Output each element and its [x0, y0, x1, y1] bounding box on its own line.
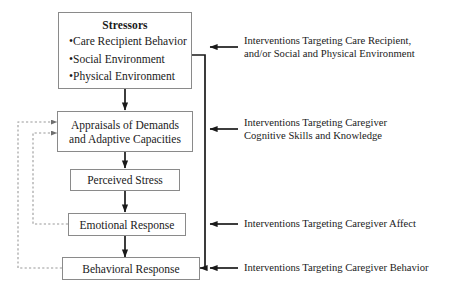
emotional-response-label: Emotional Response	[80, 219, 175, 231]
annotation-line-1: Interventions Targeting Caregiver Behavi…	[244, 262, 429, 275]
stressors-title: Stressors	[63, 19, 187, 31]
stressors-bullet-item: •Social Environment	[63, 54, 187, 66]
box-perceived-stress: Perceived Stress	[70, 169, 180, 191]
perceived-stress-label: Perceived Stress	[87, 174, 163, 186]
annotation-line-1: Interventions Targeting Caregiver	[244, 117, 387, 130]
stressors-bullet-item: •Care Recipient Behavior	[63, 36, 187, 48]
feedback-dashed-behavioral-to-appraisals	[18, 122, 62, 268]
box-behavioral-response: Behavioral Response	[62, 257, 200, 280]
stressors-bullet-label: Care Recipient Behavior	[73, 35, 187, 47]
annotation-line-2: and/or Social and Physical Environment	[244, 48, 415, 61]
annotation-intervention-appraisals: Interventions Targeting Caregiver Cognit…	[244, 117, 387, 143]
box-stressors: Stressors •Care Recipient Behavior •Soci…	[58, 12, 192, 89]
box-appraisals: Appraisals of Demands and Adaptive Capac…	[57, 111, 193, 152]
annotation-intervention-behavioral: Interventions Targeting Caregiver Behavi…	[244, 262, 429, 275]
annotation-intervention-emotional: Interventions Targeting Caregiver Affect	[244, 218, 416, 231]
stressors-bullet-item: •Physical Environment	[63, 71, 187, 83]
appraisals-line-1: Appraisals of Demands	[71, 119, 179, 131]
behavioral-response-label: Behavioral Response	[82, 263, 179, 275]
stressors-bullet-label: Physical Environment	[73, 70, 175, 82]
diagram-canvas: Stressors •Care Recipient Behavior •Soci…	[0, 0, 468, 296]
appraisals-line-2: and Adaptive Capacities	[69, 133, 181, 145]
stressors-bullet-label: Social Environment	[73, 53, 165, 65]
feedback-line-stressors-to-behavioral	[192, 55, 205, 268]
annotation-line-1: Interventions Targeting Caregiver Affect	[244, 218, 416, 231]
annotation-intervention-stressors: Interventions Targeting Care Recipient, …	[244, 35, 415, 61]
annotation-line-2: Cognitive Skills and Knowledge	[244, 130, 387, 143]
box-emotional-response: Emotional Response	[68, 213, 186, 236]
annotation-line-1: Interventions Targeting Care Recipient,	[244, 35, 415, 48]
